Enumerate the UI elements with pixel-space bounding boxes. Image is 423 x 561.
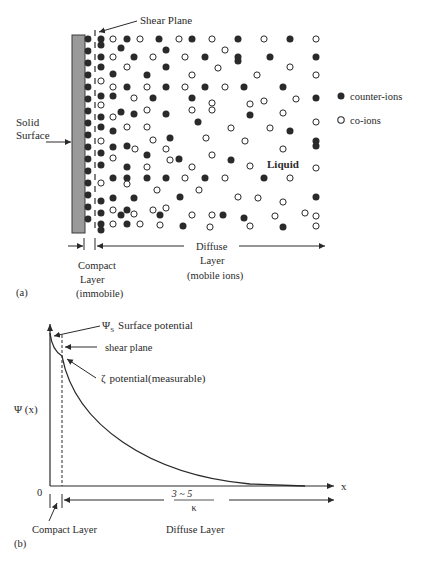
counter-ion-legend-icon [338,93,345,100]
surface-potential-label: ΨSSurface potential [102,319,193,334]
shear-plane-chart-label: shear plane [105,342,153,353]
shear-plane-label: Shear Plane [140,14,192,26]
diffuse-ions [98,36,320,234]
potential-curve [50,333,305,486]
zeta-potential-label: ζpotential(measurable) [101,372,206,385]
panel-b-potential-chart: x 0 Ψ (x) ΨSSurface potential shear plan… [14,319,347,550]
diffuse-layer-label-1: Diffuse [196,241,228,252]
solid-surface-block [72,35,85,233]
x-axis-label: x [341,480,347,492]
diffuse-layer-chart-label: Diffuse Layer [166,524,225,535]
solid-surface-label: Solid [16,116,40,128]
legend-counter-ions: counter-ions [350,91,402,102]
adsorbed-counter-ions [85,36,92,223]
legend: counter-ions co-ions [338,91,403,126]
diffuse-layer-label-2: Layer [200,255,225,266]
y-axis-label: Ψ (x) [14,403,38,416]
diffuse-layer-label-3: (mobile ions) [187,270,244,282]
liquid-label: Liquid [267,158,299,170]
legend-co-ions: co-ions [350,115,381,126]
co-ion-legend-icon [338,117,344,123]
solid-surface-label-2: Surface [16,129,50,141]
compact-layer-label-3: (immobile) [76,288,124,300]
compact-layer-chart-label: Compact Layer [32,524,98,535]
origin-label: 0 [37,487,42,498]
debye-denominator: κ [191,502,196,513]
panel-a-label: (a) [16,287,28,299]
zeta-potential-arrow [67,359,96,378]
compact-layer-label-2: Layer [80,274,105,285]
surface-potential-arrow [54,326,100,336]
debye-numerator: 3 ~ 5 [171,488,192,499]
compact-layer-label-1: Compact [78,260,116,271]
shear-plane-arrow [99,21,137,32]
panel-a-double-layer-schematic: Shear Plane Solid Surface Liquid counter… [16,14,402,300]
panel-b-label: (b) [14,538,27,550]
